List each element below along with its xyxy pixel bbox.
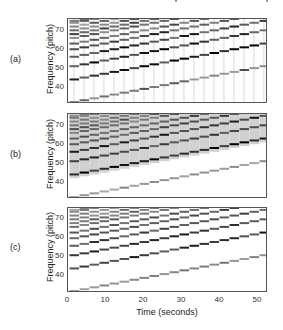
note-cell [100,220,110,222]
note-cell [110,189,120,191]
note-cell [100,216,110,218]
note-cell [150,22,160,24]
note-cell [180,27,190,29]
note-cell [90,124,100,126]
note-cell [90,121,100,123]
note-cell [80,266,90,268]
note-cell [70,128,80,130]
note-cell [120,134,129,136]
note-cell [160,61,170,63]
note-cell [140,29,150,31]
note-cell [90,39,100,41]
note-cell [70,117,80,119]
ytick-50: 50 [50,158,64,167]
note-cell [110,71,120,73]
note-cell [170,226,180,228]
note-cell [110,136,120,138]
note-cell [160,48,170,50]
note-cell [150,275,160,277]
note-cell [140,119,150,121]
ytick-70: 70 [50,25,64,34]
ytick-50: 50 [50,63,64,72]
note-cell [250,211,259,213]
note-cell [70,29,80,31]
note-cell [100,126,110,128]
note-cell [160,237,170,239]
note-cell [260,20,267,22]
note-cell [80,243,90,245]
note-cell [70,138,80,140]
note-cell [180,269,190,271]
note-cell [260,115,267,117]
note-cell [200,119,210,121]
note-cell [210,170,220,172]
note-cell [110,237,120,239]
note-cell [120,128,129,130]
note-cell [200,114,210,115]
note-cell [220,115,230,117]
note-cell [100,60,110,62]
note-cell [160,31,170,33]
note-cell [230,19,240,20]
note-cell [100,138,110,140]
ytick-60: 60 [50,139,64,148]
note-cell [170,132,180,134]
note-cell [140,138,150,140]
note-cell [120,245,129,247]
note-cell [170,235,180,237]
note-cell [260,209,267,211]
note-cell [170,208,180,209]
note-cell [250,162,259,164]
note-cell [180,211,190,213]
note-cell [200,77,210,79]
note-cell [150,216,160,218]
note-cell [80,220,90,222]
panel-label-c: (c) [10,242,21,252]
note-cell [80,172,90,174]
note-cell [220,73,230,75]
note-cell [110,260,120,262]
note-cell [70,196,80,198]
note-cell [90,29,100,31]
note-cell [90,222,100,224]
note-cell [170,29,180,31]
note-cell [190,121,200,123]
note-cell [70,20,80,22]
note-cell [130,67,140,69]
note-cell [90,170,100,172]
note-cell [190,128,200,130]
note-cell [100,37,110,39]
note-cell [80,77,90,79]
note-cell [70,101,80,103]
note-cell [160,134,170,136]
note-cell [90,286,100,288]
note-cell [70,237,80,239]
note-cell [190,56,200,58]
note-cell [230,121,240,123]
note-cell [240,128,250,130]
note-cell [200,136,210,138]
note-cell [190,151,200,153]
note-cell [110,29,120,31]
note-cell [150,145,160,147]
note-cell [90,97,100,99]
note-cell [260,65,267,67]
note-cell [100,119,110,121]
note-cell [100,262,110,264]
note-cell [240,119,250,121]
note-cell [90,264,100,266]
ytick-40: 40 [50,270,64,279]
panel-label-b: (b) [10,149,21,159]
note-cell [140,218,150,220]
plot-panel-c [67,207,267,292]
note-cell [240,213,250,215]
note-cell [150,50,160,52]
note-cell [120,213,129,215]
note-cell [220,37,230,39]
note-cell [140,35,150,37]
note-cell [110,41,120,43]
note-cell [200,126,210,128]
plot-panel-a [67,18,267,103]
note-cell [260,232,267,234]
note-cell [90,241,100,243]
